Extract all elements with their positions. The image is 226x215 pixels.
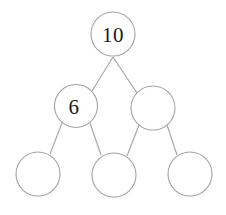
node-part-right[interactable] — [131, 86, 175, 130]
node-whole[interactable]: 10 — [91, 12, 135, 56]
node-subpart-3[interactable] — [168, 152, 212, 196]
whole-row: 10 — [91, 12, 135, 56]
node-subpart-1[interactable] — [16, 152, 60, 196]
label-whole: 10 — [102, 23, 124, 47]
circle-subpart-1[interactable] — [16, 152, 60, 196]
node-part-left[interactable]: 6 — [55, 85, 98, 128]
node-subpart-2[interactable] — [92, 153, 136, 197]
number-bond-diagram: 106 — [0, 0, 226, 215]
parts-row: 6 — [55, 85, 176, 131]
number-bond-diagram-canvas: 106 — [0, 0, 226, 215]
link-part-right-to-subpart-3 — [167, 125, 177, 155]
link-part-left-to-subpart-1 — [50, 123, 62, 154]
label-part-left: 6 — [69, 95, 80, 119]
link-part-right-to-subpart-2 — [127, 125, 139, 156]
link-part-left-to-subpart-2 — [90, 123, 101, 155]
link-whole-to-part-left — [92, 57, 113, 91]
circle-subpart-3[interactable] — [168, 152, 212, 196]
circle-subpart-2[interactable] — [92, 153, 136, 197]
circle-part-right[interactable] — [131, 86, 175, 130]
link-whole-to-part-right — [113, 57, 137, 93]
subparts-row — [16, 152, 212, 197]
circle-nodes-group: 106 — [16, 12, 212, 197]
